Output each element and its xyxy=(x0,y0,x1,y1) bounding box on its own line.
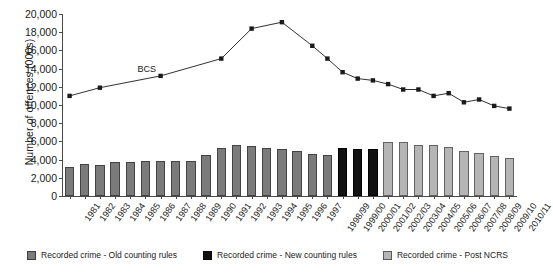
bcs-data-marker xyxy=(310,44,314,48)
x-axis-tick-mark xyxy=(343,196,344,199)
x-axis-tick-mark xyxy=(85,196,86,199)
x-axis-tick-mark xyxy=(236,196,237,199)
y-axis-tick-label: 20,000 xyxy=(25,8,62,20)
x-axis-tick-label: 1984 xyxy=(128,201,148,223)
bcs-line-series xyxy=(62,14,517,196)
x-axis-tick-mark xyxy=(252,196,253,199)
legend-item: Recorded crime - Old counting rules xyxy=(27,250,177,260)
x-axis-tick-mark xyxy=(145,196,146,199)
bcs-data-marker xyxy=(507,106,511,110)
x-axis-tick-label: 1992 xyxy=(249,201,269,223)
legend-label: Recorded crime - Old counting rules xyxy=(41,250,177,260)
x-axis-tick-mark xyxy=(449,196,450,199)
x-axis-tick-label: 1985 xyxy=(143,201,163,223)
x-axis-tick-mark xyxy=(388,196,389,199)
y-axis-tick-label: 16,000 xyxy=(25,44,62,56)
x-axis-tick-label: 1988 xyxy=(188,201,208,223)
y-axis-tick-label: 12,000 xyxy=(25,81,62,93)
x-axis-tick-label: 1983 xyxy=(112,201,132,223)
x-axis-tick-mark xyxy=(464,196,465,199)
legend-swatch-icon xyxy=(203,251,212,260)
legend-item: Recorded crime - New counting rules xyxy=(203,250,357,260)
x-axis-tick-label: 1997 xyxy=(325,201,345,223)
x-axis-tick-label: 1982 xyxy=(97,201,117,223)
x-axis-tick-mark xyxy=(100,196,101,199)
bcs-data-marker xyxy=(158,74,162,78)
y-axis-tick-label: 4,000 xyxy=(31,154,62,166)
y-axis-tick-label: 18,000 xyxy=(25,26,62,38)
bcs-data-marker xyxy=(492,104,496,108)
y-axis-tick-label: 2,000 xyxy=(31,172,62,184)
chart-legend: Recorded crime - Old counting rulesRecor… xyxy=(0,250,535,260)
x-axis-tick-mark xyxy=(297,196,298,199)
x-axis-tick-label: 1991 xyxy=(234,201,254,223)
x-axis-tick-mark xyxy=(494,196,495,199)
bcs-data-marker xyxy=(462,100,466,104)
x-axis-tick-label: 1993 xyxy=(264,201,284,223)
bcs-data-marker xyxy=(401,87,405,91)
bcs-polyline xyxy=(70,22,510,108)
bcs-data-marker xyxy=(325,56,329,60)
x-axis-tick-mark xyxy=(509,196,510,199)
legend-swatch-icon xyxy=(27,251,36,260)
x-axis-tick-label: 1994 xyxy=(279,201,299,223)
x-axis-tick-label: 1989 xyxy=(203,201,223,223)
bcs-data-marker xyxy=(371,78,375,82)
bcs-data-marker xyxy=(219,56,223,60)
y-axis-tick-label: 8,000 xyxy=(31,117,62,129)
legend-item: Recorded crime - Post NCRS xyxy=(383,250,508,260)
x-axis-tick-label: 1990 xyxy=(219,201,239,223)
x-axis-tick-mark xyxy=(191,196,192,199)
x-axis-tick-mark xyxy=(115,196,116,199)
bcs-data-marker xyxy=(340,70,344,74)
x-axis-tick-label: 1996 xyxy=(310,201,330,223)
x-axis-tick-mark xyxy=(434,196,435,199)
x-axis-tick-mark xyxy=(282,196,283,199)
bcs-data-marker xyxy=(431,94,435,98)
bcs-data-marker xyxy=(477,97,481,101)
x-axis-tick-mark xyxy=(373,196,374,199)
x-axis-tick-mark xyxy=(312,196,313,199)
x-axis-tick-mark xyxy=(221,196,222,199)
x-axis-tick-mark xyxy=(327,196,328,199)
x-axis-tick-mark xyxy=(70,196,71,199)
bcs-annotation-label: BCS xyxy=(137,64,156,74)
x-axis-tick-mark xyxy=(479,196,480,199)
bcs-data-marker xyxy=(356,76,360,80)
y-axis-tick-label: 6,000 xyxy=(31,135,62,147)
x-axis-tick-mark xyxy=(176,196,177,199)
legend-swatch-icon xyxy=(383,251,392,260)
y-axis-tick-label: 14,000 xyxy=(25,63,62,75)
x-axis-tick-label: 1995 xyxy=(294,201,314,223)
plot-area: 02,0004,0006,0008,00010,00012,00014,0001… xyxy=(62,14,517,196)
bcs-data-marker xyxy=(447,91,451,95)
legend-label: Recorded crime - New counting rules xyxy=(217,250,357,260)
bcs-data-marker xyxy=(249,26,253,30)
x-axis-tick-mark xyxy=(130,196,131,199)
x-axis-tick-mark xyxy=(161,196,162,199)
x-axis-tick-label: 1981 xyxy=(82,201,102,223)
x-axis-tick-mark xyxy=(267,196,268,199)
bcs-data-marker xyxy=(67,94,71,98)
x-axis-tick-mark xyxy=(403,196,404,199)
bcs-data-marker xyxy=(98,86,102,90)
x-axis-tick-mark xyxy=(206,196,207,199)
bcs-data-marker xyxy=(280,20,284,24)
y-axis-tick-label: 10,000 xyxy=(25,99,62,111)
bcs-data-marker xyxy=(386,82,390,86)
x-axis-tick-mark xyxy=(358,196,359,199)
x-axis-ticks: 1981198219831984198519861987198819891990… xyxy=(62,196,517,256)
legend-label: Recorded crime - Post NCRS xyxy=(397,250,508,260)
x-axis-tick-label: 1987 xyxy=(173,201,193,223)
x-axis-tick-mark xyxy=(418,196,419,199)
x-axis-tick-label: 1986 xyxy=(158,201,178,223)
bcs-data-marker xyxy=(416,87,420,91)
